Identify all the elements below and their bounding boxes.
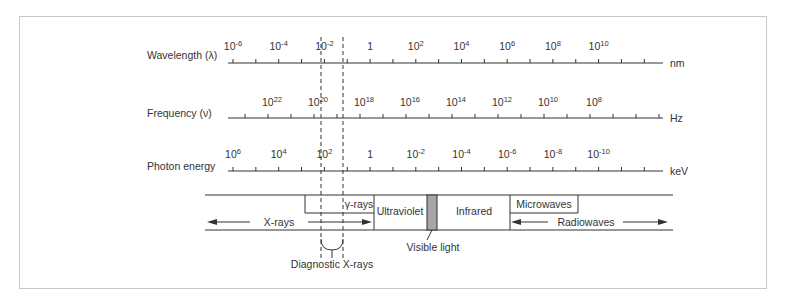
tick-label: 108 bbox=[545, 39, 561, 52]
tick-label: 1010 bbox=[589, 39, 609, 52]
diagnostic-xrays-label: Diagnostic X-rays bbox=[291, 258, 373, 270]
tick-label: 10-6 bbox=[498, 147, 516, 160]
tick-label: 102 bbox=[408, 39, 424, 52]
tick-label: 106 bbox=[499, 39, 515, 52]
band-label-xrays: X-rays bbox=[264, 216, 294, 228]
band-label-radiowaves: Radiowaves bbox=[557, 216, 614, 228]
visible-light-band bbox=[427, 195, 437, 230]
tick-label: 10-10 bbox=[587, 147, 610, 160]
tick-label: 10-6 bbox=[224, 39, 242, 52]
band-label-ultraviolet: Ultraviolet bbox=[377, 205, 424, 217]
unit-label: keV bbox=[670, 165, 688, 177]
tick-label: 108 bbox=[586, 95, 602, 108]
scales: Wavelength (λ)10-610-410-211021041061081… bbox=[147, 39, 688, 177]
visible-light-label: Visible light bbox=[407, 241, 460, 253]
band-label-microwaves: Microwaves bbox=[516, 198, 571, 210]
band-label-gamma: γ-rays bbox=[345, 198, 374, 210]
tick-label: 1010 bbox=[538, 95, 558, 108]
tick-label: 104 bbox=[271, 147, 287, 160]
scale-frequency: Frequency (ν)102210201018101610141012101… bbox=[147, 95, 683, 124]
tick-label: 10-2 bbox=[407, 147, 425, 160]
tick-label: 106 bbox=[225, 147, 241, 160]
tick-label: 1022 bbox=[262, 95, 282, 108]
tick-label: 1014 bbox=[446, 95, 466, 108]
unit-label: nm bbox=[670, 57, 685, 69]
diagnostic-bracket bbox=[321, 239, 343, 250]
scale-label: Frequency (ν) bbox=[147, 107, 212, 119]
tick-label: 102 bbox=[316, 147, 332, 160]
visible-light-leader bbox=[427, 230, 432, 240]
tick-label: 1 bbox=[367, 148, 373, 160]
tick-label: 1012 bbox=[492, 95, 512, 108]
tick-label: 1018 bbox=[354, 95, 374, 108]
tick-label: 1020 bbox=[308, 95, 328, 108]
tick-label: 10-4 bbox=[270, 39, 288, 52]
band-label-infrared: Infrared bbox=[456, 205, 492, 217]
tick-label: 10-8 bbox=[544, 147, 562, 160]
tick-label: 1016 bbox=[400, 95, 420, 108]
unit-label: Hz bbox=[670, 112, 683, 124]
tick-label: 104 bbox=[454, 39, 470, 52]
scale-label: Wavelength (λ) bbox=[147, 49, 217, 61]
tick-label: 10-4 bbox=[452, 147, 470, 160]
tick-label: 10-2 bbox=[315, 39, 333, 52]
scale-wavelength: Wavelength (λ)10-610-410-211021041061081… bbox=[147, 39, 685, 69]
tick-label: 1 bbox=[367, 40, 373, 52]
scale-photon-energy: Photon energy106104102110-210-410-610-81… bbox=[147, 147, 688, 177]
spectrum-diagram: Wavelength (λ)10-610-410-211021041061081… bbox=[0, 0, 788, 305]
band-diagram: X-rays γ-rays Ultraviolet Infrared Micro… bbox=[205, 195, 673, 230]
scale-label: Photon energy bbox=[147, 160, 216, 172]
